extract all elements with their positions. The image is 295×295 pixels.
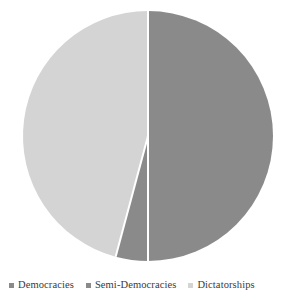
legend-item-semi-democracies[interactable]: Semi-Democracies — [86, 279, 176, 291]
legend-item-democracies[interactable]: Democracies — [9, 279, 74, 291]
pie-plot-area — [0, 0, 295, 272]
legend-swatch-icon-democracies — [9, 283, 14, 288]
legend-label-dictatorships: Dictatorships — [197, 279, 254, 291]
pie-svg — [0, 0, 295, 272]
legend-item-dictatorships[interactable]: Dictatorships — [188, 279, 254, 291]
legend-label-democracies: Democracies — [18, 279, 74, 291]
pie-chart-figure: Democracies Semi-Democracies Dictatorshi… — [0, 0, 295, 295]
chart-legend: Democracies Semi-Democracies Dictatorshi… — [0, 275, 295, 295]
legend-swatch-icon-dictatorships — [188, 283, 193, 288]
legend-label-semi-democracies: Semi-Democracies — [95, 279, 176, 291]
pie-slice-democracies[interactable] — [148, 11, 273, 261]
legend-swatch-icon-semi-democracies — [86, 283, 91, 288]
